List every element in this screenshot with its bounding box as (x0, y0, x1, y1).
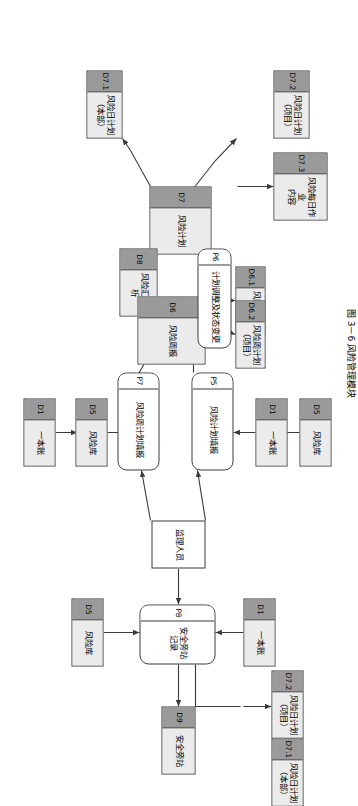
store-id: D6.1 (236, 267, 264, 288)
data-store-d7-2-top[interactable]: D7.2 风险日计划（项目） (273, 70, 309, 138)
process-p6[interactable]: P6 计划调整及状态变更 (197, 248, 231, 348)
process-label: 风险周计划填报 (118, 389, 158, 469)
process-label: 风险计划填报 (192, 389, 232, 469)
store-label: 风险库 (72, 620, 102, 665)
store-label: 安全旁站 (162, 728, 194, 773)
figure-caption: 图 3－6 风险管理模块 (345, 308, 358, 397)
process-id: P7 (118, 373, 158, 389)
store-label: 风险周报 (138, 318, 204, 363)
store-label: 风险周计划（项目） (236, 322, 264, 367)
store-id: D1 (244, 599, 274, 620)
store-label: 风险库 (76, 420, 106, 465)
store-label: 风险日计划（项目） (274, 92, 308, 137)
data-store-d5-right[interactable]: D5 风险库 (299, 398, 331, 466)
data-store-d1-bottom[interactable]: D1 一本账 (243, 598, 275, 666)
process-id: P6 (198, 249, 230, 265)
store-id: D6.2 (236, 301, 264, 322)
data-store-d1-right[interactable]: D1 一本账 (23, 398, 55, 466)
data-store-d6-2[interactable]: D6.2 风险周计划（项目） (235, 300, 265, 368)
store-label: 一本账 (244, 620, 274, 665)
data-store-d7-3[interactable]: D7.3 风险每日作业内容 (273, 152, 327, 220)
store-id: D8 (120, 249, 156, 270)
store-id: D5 (72, 599, 102, 620)
store-label: 风险日计划（项目） (272, 692, 302, 737)
process-label: 安全旁站记录 (140, 621, 214, 663)
data-store-d7-1-bottom[interactable]: D7.1 风险日计划（本部） (271, 738, 303, 806)
data-store-d7-2-bottom[interactable]: D7.2 风险日计划（项目） (271, 670, 303, 738)
store-label: 一本账 (24, 420, 54, 465)
process-label: 计划调整及状态变更 (198, 265, 230, 347)
store-label: 风险计划 (150, 208, 210, 253)
store-id: D7.1 (87, 71, 121, 92)
data-store-d7[interactable]: D7 风险计划 (149, 186, 211, 254)
store-label: 风险日计划（本部） (87, 92, 121, 137)
store-label: 风险日计划（本部） (272, 760, 302, 805)
process-id: P5 (192, 373, 232, 389)
store-id: D6 (138, 297, 204, 318)
store-id: D5 (300, 399, 330, 420)
data-store-d5-left[interactable]: D5 风险库 (75, 398, 107, 466)
external-entity-supervisor[interactable]: 监理人员 (151, 520, 205, 568)
store-id: D5 (76, 399, 106, 420)
store-id: D7.1 (272, 739, 302, 760)
process-p5[interactable]: P5 风险计划填报 (191, 372, 233, 470)
store-id: D1 (24, 399, 54, 420)
store-id: D7.2 (272, 671, 302, 692)
store-label: 一本账 (256, 420, 286, 465)
store-id: D9 (162, 707, 194, 728)
data-store-d6[interactable]: D6 风险周报 (137, 296, 205, 364)
data-store-d7-1-top[interactable]: D7.1 风险日计划（本部） (86, 70, 122, 138)
process-p8[interactable]: P8 安全旁站记录 (139, 604, 215, 664)
store-id: D7.2 (274, 71, 308, 92)
process-id: P8 (140, 605, 214, 621)
store-id: D1 (256, 399, 286, 420)
data-store-d5-bottom[interactable]: D5 风险库 (71, 598, 103, 666)
process-p7[interactable]: P7 风险周计划填报 (117, 372, 159, 470)
data-store-d9[interactable]: D9 安全旁站 (161, 706, 195, 774)
store-id: D7.3 (274, 153, 326, 174)
data-store-d1-left[interactable]: D1 一本账 (255, 398, 287, 466)
store-id: D7 (150, 187, 210, 208)
store-label: 风险每日作业内容 (274, 174, 326, 219)
store-label: 风险库 (300, 420, 330, 465)
